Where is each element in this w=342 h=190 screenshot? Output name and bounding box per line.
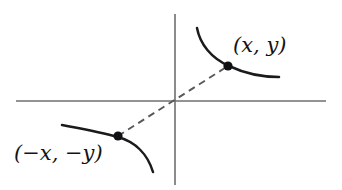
point-neg-x-neg-y-dot — [113, 131, 122, 140]
figure-container: (x, y) (−x, −y) — [0, 0, 342, 190]
point-xy-dot — [223, 61, 232, 70]
point-xy-label: (x, y) — [233, 33, 286, 57]
point-neg-x-neg-y-label: (−x, −y) — [14, 141, 103, 165]
coordinate-plane-diagram: (x, y) (−x, −y) — [0, 0, 342, 190]
